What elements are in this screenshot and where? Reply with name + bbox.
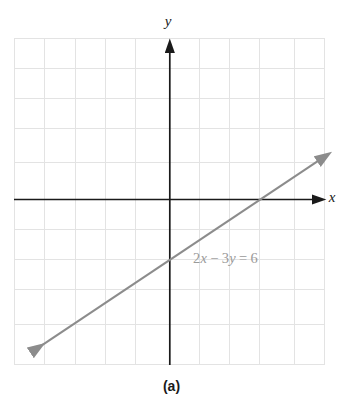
equation-right-hand-side: 6 <box>250 250 257 266</box>
coordinate-plane-plot <box>0 0 343 415</box>
y-axis-label: y <box>160 14 176 29</box>
figure-caption: (a) <box>0 378 343 394</box>
graph-figure: y x 2x − 3y = 6 (a) <box>0 0 343 415</box>
equation-annotation: 2x − 3y = 6 <box>193 251 258 266</box>
equation-operator: − <box>210 250 218 266</box>
x-axis-label: x <box>324 190 340 205</box>
equation-variable-x: x <box>200 250 207 266</box>
equation-equals-sign: = <box>239 250 247 266</box>
equation-variable-y: y <box>229 250 236 266</box>
